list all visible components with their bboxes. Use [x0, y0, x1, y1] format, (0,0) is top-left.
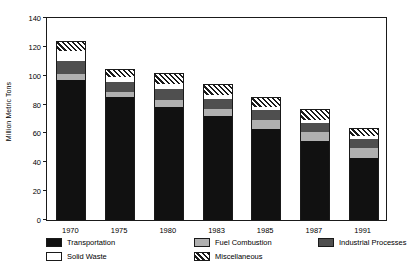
- bar-segment-transportation: [203, 116, 233, 220]
- bar-segment-industrial: [349, 139, 379, 148]
- y-axis-tick: [43, 132, 47, 133]
- legend-swatch-solid-icon: [46, 252, 62, 261]
- bar-segment-fuel: [154, 100, 184, 107]
- bar-1991: [349, 128, 379, 220]
- x-axis-tick-label: 1991: [354, 226, 371, 235]
- bar-segment-industrial: [300, 123, 330, 132]
- legend-label: Miscellaneous: [215, 252, 263, 261]
- bar-1987: [300, 109, 330, 220]
- legend-swatch-transportation-icon: [46, 238, 62, 247]
- y-axis-tick: [43, 190, 47, 191]
- x-axis-tick-label: 1980: [159, 226, 176, 235]
- bar-1980: [154, 73, 184, 220]
- bar-segment-transportation: [56, 80, 86, 220]
- legend-item-fuel[interactable]: Fuel Combustion: [194, 238, 272, 247]
- legend-item-solid[interactable]: Solid Waste: [46, 252, 107, 261]
- bar-segment-industrial: [251, 110, 281, 120]
- x-axis-tick-label: 1970: [62, 226, 79, 235]
- legend-label: Industrial Processes: [339, 238, 407, 247]
- y-axis-title-text: Million Metric Tons: [6, 81, 13, 140]
- legend-label: Transportation: [67, 238, 115, 247]
- bar-segment-misc: [251, 97, 281, 107]
- bar-segment-industrial: [105, 82, 135, 92]
- y-axis-tick-label: 0: [37, 216, 41, 225]
- bar-segment-transportation: [251, 129, 281, 220]
- chart-legend: TransportationFuel CombustionIndustrial …: [46, 238, 391, 266]
- x-axis-tick-label: 1985: [257, 226, 274, 235]
- bar-1985: [251, 97, 281, 220]
- legend-swatch-industrial-icon: [318, 238, 334, 247]
- y-axis-tick: [43, 75, 47, 76]
- y-axis-tick: [43, 46, 47, 47]
- y-axis-title: Million Metric Tons: [2, 0, 16, 222]
- plot-inner: 020406080100120140: [47, 18, 386, 220]
- bar-1975: [105, 69, 135, 221]
- bar-segment-transportation: [349, 158, 379, 220]
- y-axis-tick: [43, 104, 47, 105]
- y-axis-tick-label: 140: [28, 14, 41, 23]
- legend-item-industrial[interactable]: Industrial Processes: [318, 238, 407, 247]
- bar-segment-transportation: [105, 97, 135, 220]
- y-axis-tick-label: 100: [28, 71, 41, 80]
- bar-segment-industrial: [56, 61, 86, 74]
- bar-segment-fuel: [251, 120, 281, 129]
- bar-segment-misc: [154, 73, 184, 85]
- x-axis-tick-label: 1983: [208, 226, 225, 235]
- bar-segment-transportation: [300, 141, 330, 220]
- x-axis-tick-label: 1975: [111, 226, 128, 235]
- bar-segment-misc: [203, 84, 233, 94]
- x-axis-tick-label: 1987: [306, 226, 323, 235]
- y-axis-tick: [43, 161, 47, 162]
- y-axis-tick-label: 20: [33, 187, 41, 196]
- y-axis-tick-label: 40: [33, 158, 41, 167]
- bar-1983: [203, 84, 233, 220]
- y-axis-tick: [43, 17, 47, 18]
- bar-segment-fuel: [300, 132, 330, 141]
- bar-segment-industrial: [154, 89, 184, 101]
- bar-segment-misc: [300, 109, 330, 121]
- y-axis-tick-label: 60: [33, 129, 41, 138]
- plot-area: 020406080100120140: [46, 17, 387, 221]
- bar-segment-solid: [56, 51, 86, 61]
- bar-segment-misc: [105, 69, 135, 78]
- bar-segment-industrial: [203, 99, 233, 109]
- y-axis-tick-label: 120: [28, 42, 41, 51]
- y-axis-tick-label: 80: [33, 100, 41, 109]
- bar-1970: [56, 41, 86, 220]
- legend-swatch-misc-icon: [194, 252, 210, 261]
- legend-label: Solid Waste: [67, 252, 107, 261]
- bar-segment-misc: [349, 128, 379, 137]
- bar-segment-fuel: [203, 109, 233, 116]
- bar-segment-misc: [56, 41, 86, 51]
- legend-item-misc[interactable]: Miscellaneous: [194, 252, 263, 261]
- y-axis-tick: [43, 219, 47, 220]
- legend-label: Fuel Combustion: [215, 238, 272, 247]
- bar-segment-fuel: [349, 148, 379, 158]
- legend-swatch-fuel-icon: [194, 238, 210, 247]
- bar-segment-transportation: [154, 107, 184, 220]
- legend-item-transportation[interactable]: Transportation: [46, 238, 115, 247]
